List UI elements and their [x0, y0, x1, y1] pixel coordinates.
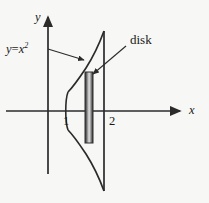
x-axis-label: x [189, 104, 195, 117]
curve-label-leader [48, 49, 84, 60]
curve-equation-exponent: 2 [24, 41, 28, 50]
figure-container: y=x2 disk x y 1 2 [0, 0, 209, 203]
disk-label-leader [93, 46, 126, 74]
x-tick-label-1: 1 [63, 115, 69, 128]
curve-equation-label: y=x2 [6, 43, 28, 56]
x-tick-label-2: 2 [109, 115, 115, 128]
curve-equation-operator: = [12, 42, 19, 56]
disk-label: disk [130, 33, 152, 46]
solid-of-revolution-diagram [0, 0, 209, 203]
representative-disk [85, 72, 93, 143]
y-axis-label: y [35, 11, 41, 24]
